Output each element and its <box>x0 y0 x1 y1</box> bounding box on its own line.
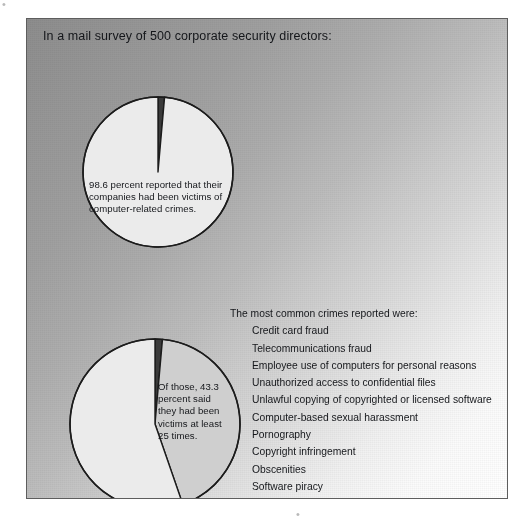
infographic-panel: In a mail survey of 500 corporate securi… <box>26 18 508 499</box>
common-crimes-list: Credit card fraudTelecommunications frau… <box>230 322 505 499</box>
scan-artifact-top-left: • <box>2 0 6 10</box>
crime-list-item: Computer-based sexual harassment <box>252 409 505 426</box>
crime-list-item: Telecommunications fraud <box>252 340 505 357</box>
crime-list-item: Software piracy <box>252 478 505 495</box>
crime-list-item: Credit card fraud <box>252 322 505 339</box>
pie-chart-victims-caption: 98.6 percent reported that their compani… <box>89 179 241 216</box>
screenshot-root: • • In a mail survey of 500 corporate se… <box>0 0 529 528</box>
crime-list-item: Unlawful copying of copyrighted or licen… <box>252 391 505 408</box>
crime-list-item: Copyright infringement <box>252 443 505 460</box>
common-crimes-block: The most common crimes reported were: Cr… <box>230 305 505 499</box>
crime-list-item: Unauthorized access to confidential file… <box>252 374 505 391</box>
scan-artifact-bottom: • <box>296 508 300 520</box>
crime-list-item: Communication of trade secrets to extern… <box>252 495 505 499</box>
crime-list-item: Pornography <box>252 426 505 443</box>
pie-chart-victims <box>56 71 260 275</box>
crime-list-item: Employee use of computers for personal r… <box>252 357 505 374</box>
common-crimes-title: The most common crimes reported were: <box>230 305 505 322</box>
pie-chart-victims-svg <box>56 71 260 275</box>
pie-chart-repeat-victims-caption: Of those, 43.3 percent said they had bee… <box>158 381 230 442</box>
headline-text: In a mail survey of 500 corporate securi… <box>43 29 332 44</box>
crime-list-item: Obscenities <box>252 461 505 478</box>
